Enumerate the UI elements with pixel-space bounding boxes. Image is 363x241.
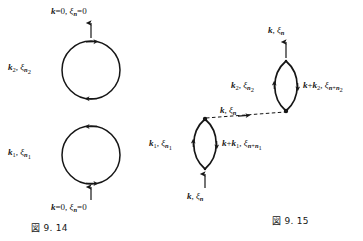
- fig15-lower-right-label: k+k1, ξn+n1: [222, 139, 262, 151]
- fig14-caption: 図 9. 14: [31, 221, 68, 234]
- loop-lens-outline: [275, 61, 298, 111]
- loop-circle-outline: [62, 41, 120, 99]
- fig15-caption: 図 9. 15: [272, 214, 309, 227]
- dashed-line: [206, 112, 285, 118]
- loop-vertex-top: [285, 60, 287, 62]
- interaction-connector: [206, 112, 285, 118]
- loop-lower-lens: [193, 117, 217, 188]
- fig14-bottom-external-label: k=0, ξn=0: [51, 203, 87, 213]
- fig15-dashed-line-label: k, ξn: [220, 106, 236, 116]
- loop-circle-outline: [62, 126, 120, 184]
- fig15-lower-left-label: k1, ξn1: [149, 139, 172, 151]
- fig15-bottom-external-label: k, ξn: [187, 192, 203, 202]
- fig15-upper-right-label: k+k2, ξn+n2: [303, 81, 343, 93]
- dashed-line-arrow: [238, 115, 248, 116]
- fig14-lower-loop-label: k1, ξn1: [8, 148, 31, 160]
- loop-lens-outline: [194, 119, 217, 169]
- figure-9-15-group: [193, 42, 298, 188]
- fig15-top-external-label: k, ξn: [268, 26, 284, 36]
- loop-vertex-bottom: [204, 168, 206, 170]
- figure-9-14-group: [62, 23, 120, 200]
- loop-upper-circle: [62, 23, 120, 99]
- loop-lower-circle: [62, 126, 120, 200]
- fig15-upper-left-label: k2, ξn2: [231, 81, 254, 93]
- fig14-upper-loop-label: k2, ξn2: [8, 63, 31, 75]
- loop-upper-lens: [274, 42, 298, 113]
- fig14-top-external-label: k=0, ξn=0: [51, 7, 87, 17]
